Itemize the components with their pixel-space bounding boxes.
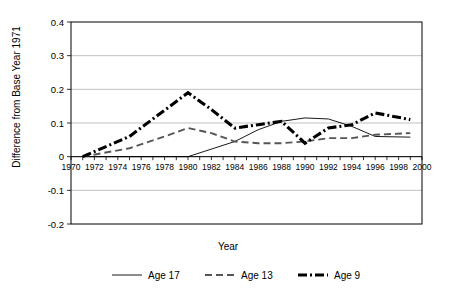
x-axis-tick-labels: 1970197219741976197819801982198419861988… (62, 162, 432, 172)
x-tick-label: 1994 (342, 162, 361, 172)
legend-label-age-13: Age 13 (241, 270, 273, 281)
y-tick-label: 0.3 (51, 50, 64, 61)
x-tick-label: 1996 (366, 162, 385, 172)
y-tick-label: -0.1 (48, 185, 64, 196)
chart-svg: 0.40.30.20.10-0.1-0.2 197019721974197619… (0, 0, 457, 293)
x-axis-title: Year (218, 241, 239, 252)
x-tick-label: 1988 (272, 162, 291, 172)
y-tick-label: 0.1 (51, 118, 64, 129)
x-tick-label: 1986 (249, 162, 268, 172)
x-tick-label: 1982 (202, 162, 221, 172)
x-tick-label: 1970 (62, 162, 81, 172)
x-tick-label: 1980 (179, 162, 198, 172)
x-tick-label: 1976 (132, 162, 151, 172)
x-tick-label: 1992 (319, 162, 338, 172)
series-lines-group (83, 93, 411, 157)
y-axis-tick-labels: 0.40.30.20.10-0.1-0.2 (48, 17, 71, 230)
y-axis-title: Difference from Base Year 1971 (11, 26, 22, 168)
x-tick-label: 1990 (296, 162, 315, 172)
x-axis-title-text: Year (218, 241, 239, 252)
series-line-age-13 (83, 128, 411, 157)
y-tick-label: 0.4 (51, 17, 64, 28)
legend-label-age-17: Age 17 (148, 270, 180, 281)
y-tick-label: 0 (59, 151, 64, 162)
y-tick-label: -0.2 (48, 219, 64, 230)
x-tick-label: 2000 (413, 162, 432, 172)
legend-label-age-9: Age 9 (334, 270, 361, 281)
x-tick-label: 1984 (225, 162, 244, 172)
x-tick-label: 1998 (389, 162, 408, 172)
y-tick-label: 0.2 (51, 84, 64, 95)
x-axis-tick-marks (71, 157, 422, 161)
chart-container: 0.40.30.20.10-0.1-0.2 197019721974197619… (0, 0, 457, 293)
chart-legend: Age 17Age 13Age 9 (112, 270, 361, 281)
series-line-age-17 (83, 118, 411, 157)
x-tick-label: 1972 (85, 162, 104, 172)
y-axis-title-text: Difference from Base Year 1971 (11, 26, 22, 168)
x-tick-label: 1978 (155, 162, 174, 172)
x-tick-label: 1974 (108, 162, 127, 172)
